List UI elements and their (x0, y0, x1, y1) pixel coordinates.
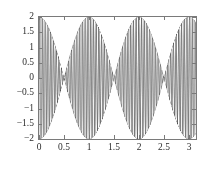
y-tick-mark (38, 109, 42, 110)
y-tick-mark-right (192, 124, 196, 125)
x-tick-mark (114, 135, 115, 139)
y-tick-mark (38, 93, 42, 94)
y-tick-mark (38, 32, 42, 33)
x-tick-label: 1 (87, 143, 92, 152)
x-tick-label: 1.5 (108, 143, 120, 152)
y-tick-label: 0.5 (22, 58, 34, 67)
x-tick-label: 0 (37, 143, 42, 152)
x-tick-mark-top (114, 16, 115, 20)
y-tick-mark-right (192, 48, 196, 49)
y-tick-label: 2 (29, 12, 34, 21)
y-tick-mark-right (192, 93, 196, 94)
y-tick-mark (38, 48, 42, 49)
chart-figure: 21.510.50−0.5−1−1.5−2 00.511.522.53 (0, 0, 209, 169)
waveform-trace (39, 17, 196, 139)
y-tick-mark (38, 124, 42, 125)
x-tick-label: 0.5 (58, 143, 70, 152)
y-tick-label: 1 (29, 43, 34, 52)
x-tick-mark-top (139, 16, 140, 20)
y-tick-label: 1.5 (22, 27, 34, 36)
y-tick-label: −1 (24, 104, 34, 113)
y-tick-label: 0 (29, 73, 34, 82)
y-tick-mark-right (192, 78, 196, 79)
y-tick-mark-right (192, 17, 196, 18)
x-tick-mark-top (64, 16, 65, 20)
y-tick-label: −0.5 (17, 88, 34, 97)
x-tick-label: 3 (187, 143, 192, 152)
x-tick-mark-top (164, 16, 165, 20)
y-tick-mark (38, 78, 42, 79)
x-tick-mark (39, 135, 40, 139)
x-tick-mark (189, 135, 190, 139)
x-tick-mark (64, 135, 65, 139)
y-tick-mark (38, 139, 42, 140)
y-tick-mark-right (192, 32, 196, 33)
y-tick-mark (38, 63, 42, 64)
y-tick-label: −1.5 (17, 119, 34, 128)
x-tick-label: 2 (137, 143, 142, 152)
x-tick-mark (139, 135, 140, 139)
x-tick-mark-top (89, 16, 90, 20)
y-tick-mark-right (192, 63, 196, 64)
y-tick-label: −2 (24, 134, 34, 143)
plot-area (38, 16, 197, 140)
x-tick-mark-top (189, 16, 190, 20)
x-tick-mark (89, 135, 90, 139)
x-tick-mark-top (39, 16, 40, 20)
x-tick-mark (164, 135, 165, 139)
y-tick-mark-right (192, 109, 196, 110)
x-tick-label: 2.5 (158, 143, 170, 152)
y-tick-mark-right (192, 139, 196, 140)
